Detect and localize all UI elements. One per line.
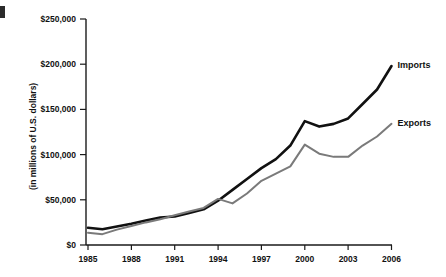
- y-tick-label: $200,000: [41, 59, 77, 69]
- x-tick-label: 2006: [382, 254, 401, 264]
- y-tick-label: $100,000: [41, 150, 77, 160]
- series-label-layer: ImportsExports: [398, 60, 432, 128]
- x-axis-tick-labels: 1985 1988 1991 1994 1997 2000 2003 2006: [79, 254, 402, 264]
- y-tick-label: $150,000: [41, 104, 77, 114]
- series-layer: [88, 66, 392, 234]
- x-tick-label: 2003: [339, 254, 358, 264]
- x-axis-ticks: [88, 245, 392, 250]
- imports-label: Imports: [398, 60, 431, 70]
- x-tick-label: 1994: [209, 254, 228, 264]
- x-tick-label: 1991: [165, 254, 184, 264]
- x-tick-label: 1997: [252, 254, 271, 264]
- y-tick-label: $250,000: [41, 14, 77, 24]
- x-tick-label: 1988: [122, 254, 141, 264]
- y-axis-ticks: [80, 19, 86, 245]
- exports-label: Exports: [398, 118, 432, 128]
- line-chart: $0 $50,000 $100,000 $150,000 $200,000 $2…: [0, 0, 446, 277]
- x-tick-label: 1985: [79, 254, 98, 264]
- series-line-exports: [88, 124, 392, 234]
- y-tick-label: $0: [67, 240, 77, 250]
- y-axis-title: (in millions of U.S. dollars): [28, 83, 38, 190]
- chart-container: $0 $50,000 $100,000 $150,000 $200,000 $2…: [0, 0, 446, 277]
- x-tick-label: 2000: [295, 254, 314, 264]
- y-tick-label: $50,000: [45, 195, 76, 205]
- series-line-imports: [88, 66, 392, 229]
- y-axis-tick-labels: $0 $50,000 $100,000 $150,000 $200,000 $2…: [41, 14, 77, 250]
